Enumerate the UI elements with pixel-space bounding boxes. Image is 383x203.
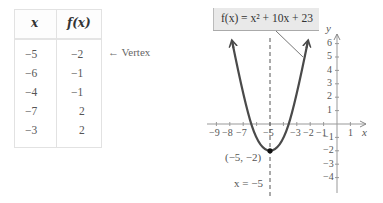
y-tick-label: −2 — [323, 144, 334, 155]
y-tick-label: 1 — [327, 104, 332, 115]
y-tick-label: 2 — [327, 90, 332, 101]
x-tick-label: −5 — [263, 127, 274, 138]
x-tick-label: 1 — [348, 127, 353, 138]
equation-leader-line — [276, 31, 303, 57]
y-tick-label: 4 — [327, 64, 332, 75]
x-tick-label: −9 — [209, 127, 220, 138]
y-tick-label: −4 — [323, 171, 334, 182]
right-arrowhead — [307, 40, 309, 48]
x-tick-label: −7 — [236, 127, 247, 138]
x-axis-label: x — [362, 126, 367, 138]
vertex-point — [267, 148, 272, 153]
y-tick-label: 6 — [327, 37, 332, 48]
x-tick-label: −2 — [303, 127, 314, 138]
x-tick-label: −3 — [290, 127, 301, 138]
y-axis-label: y — [326, 22, 331, 34]
y-tick-label: 3 — [327, 77, 332, 88]
y-tick-label: −1 — [323, 131, 334, 142]
y-tick-label: −3 — [323, 158, 334, 169]
y-tick-label: 5 — [327, 50, 332, 61]
x-tick-label: −8 — [222, 127, 233, 138]
axis-of-symmetry-label: x = −5 — [234, 177, 263, 189]
equation-underline — [213, 30, 319, 31]
equation-label: f(x) = x² + 10x + 23 — [213, 8, 319, 30]
left-arrowhead — [232, 40, 234, 48]
vertex-coordinate-label: (−5, −2) — [225, 151, 261, 163]
